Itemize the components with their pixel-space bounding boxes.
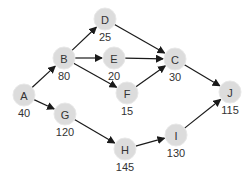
nodes-layer: A40B80D25E20F15C30G120H145I130J115 — [13, 8, 241, 172]
node-value: 130 — [167, 147, 185, 159]
node-value: 80 — [58, 70, 70, 82]
node-label: B — [60, 53, 67, 65]
node-label: J — [227, 87, 233, 99]
edge-d-c — [115, 24, 165, 53]
node-e: E20 — [103, 47, 125, 82]
node-value: 120 — [56, 126, 74, 138]
edge-e-c — [125, 58, 163, 59]
node-label: E — [110, 53, 117, 65]
node-label: I — [174, 130, 177, 142]
node-label: A — [20, 90, 28, 102]
node-value: 115 — [221, 104, 239, 116]
edge-h-i — [136, 138, 165, 146]
network-diagram: A40B80D25E20F15C30G120H145I130J115 — [0, 0, 246, 172]
edge-i-j — [185, 99, 221, 128]
node-h: H145 — [114, 138, 136, 172]
node-value: 25 — [99, 31, 111, 43]
node-label: G — [61, 109, 70, 121]
edge-a-b — [32, 66, 55, 87]
edge-g-h — [75, 120, 115, 143]
node-d: D25 — [94, 8, 116, 43]
node-g: G120 — [54, 103, 76, 138]
node-label: F — [124, 88, 131, 100]
node-label: C — [171, 54, 179, 66]
node-value: 30 — [169, 71, 181, 83]
edge-f-c — [136, 66, 165, 87]
node-f: F15 — [116, 82, 138, 117]
edge-b-d — [72, 27, 96, 50]
edge-c-j — [184, 65, 219, 86]
node-value: 20 — [108, 70, 120, 82]
node-value: 40 — [18, 107, 30, 119]
edge-a-g — [34, 100, 54, 109]
node-a: A40 — [13, 84, 35, 119]
node-b: B80 — [53, 47, 75, 82]
node-label: D — [101, 14, 109, 26]
node-j: J115 — [219, 81, 241, 116]
node-label: H — [121, 144, 129, 156]
node-i: I130 — [165, 124, 187, 159]
node-value: 15 — [121, 105, 133, 117]
node-value: 145 — [116, 161, 134, 172]
node-c: C30 — [164, 48, 186, 83]
